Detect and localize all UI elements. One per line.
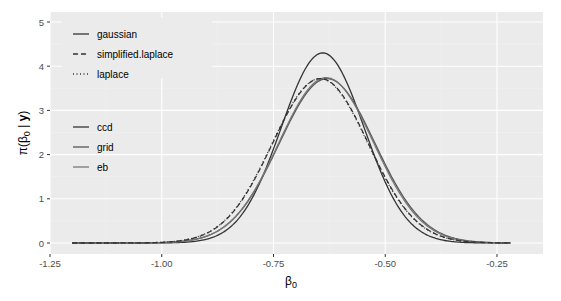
x-tick-label: -1.00 xyxy=(151,258,173,269)
x-tick-label: -0.75 xyxy=(263,258,285,269)
legend-label-simplified-laplace: simplified.laplace xyxy=(97,49,174,60)
y-tick-label: 3 xyxy=(39,105,44,116)
x-tick-label: -0.50 xyxy=(374,258,396,269)
y-tick-label: 0 xyxy=(39,238,44,249)
y-tick-label: 4 xyxy=(39,61,44,72)
legend-label-eb: eb xyxy=(97,162,109,173)
legend-label-ccd: ccd xyxy=(97,122,113,133)
density-chart: 012345 -1.25-1.00-0.75-0.50-0.25 gaussia… xyxy=(0,0,561,301)
legend-label-laplace: laplace xyxy=(97,69,129,80)
x-tick-label: -1.25 xyxy=(39,258,61,269)
legend-label-gaussian: gaussian xyxy=(97,29,137,40)
x-axis-title: β0 xyxy=(285,274,297,290)
y-tick-label: 2 xyxy=(39,149,44,160)
x-axis: -1.25-1.00-0.75-0.50-0.25 xyxy=(39,254,508,269)
y-axis-title: π(β0 | y) xyxy=(16,111,32,156)
y-tick-label: 5 xyxy=(39,17,44,28)
legend-label-grid: grid xyxy=(97,142,114,153)
x-tick-label: -0.25 xyxy=(486,258,508,269)
y-tick-label: 1 xyxy=(39,193,44,204)
y-axis: 012345 xyxy=(39,17,50,249)
legend-linetype: gaussian simplified.laplace laplace xyxy=(62,18,212,80)
